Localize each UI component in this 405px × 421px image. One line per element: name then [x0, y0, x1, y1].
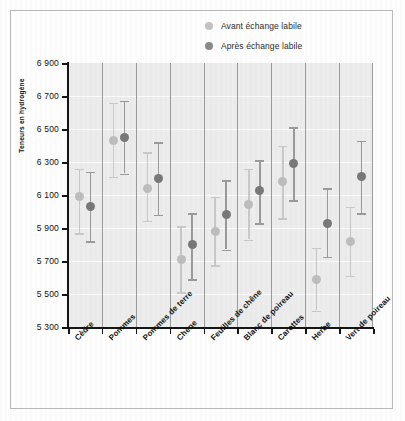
x-axis-tick [136, 329, 138, 334]
data-point-marker [143, 184, 152, 193]
error-bar-cap-lower [188, 279, 197, 281]
error-bar-cap-upper [143, 152, 152, 154]
plot-area [68, 63, 373, 327]
error-bar-cap-lower [143, 221, 152, 223]
gridline-vertical [136, 63, 137, 327]
y-axis-tick [62, 261, 68, 263]
y-axis-tick-label: 6 500 [37, 124, 59, 134]
data-point-marker [312, 275, 321, 284]
x-axis-tick [170, 329, 172, 334]
error-bar-cap-upper [312, 248, 321, 250]
error-bar-cap-upper [177, 226, 186, 228]
x-axis-tick [102, 329, 104, 334]
data-point-marker [86, 202, 95, 211]
error-bar-cap-upper [86, 172, 95, 174]
x-axis-tick [339, 329, 341, 334]
error-bar-cap-upper [244, 169, 253, 171]
error-bar-cap-lower [120, 174, 129, 176]
error-bar-cap-lower [211, 265, 220, 267]
gridline-horizontal [68, 294, 373, 295]
error-bar-cap-lower [289, 200, 298, 202]
error-bar-cap-upper [188, 213, 197, 215]
x-axis-tick [237, 329, 239, 334]
gridline-vertical [170, 63, 171, 327]
y-axis-tick [62, 195, 68, 197]
error-bar-cap-lower [154, 215, 163, 217]
x-axis-tick [68, 329, 70, 334]
data-point-marker [244, 200, 253, 209]
y-axis-tick-label: 5 300 [37, 322, 59, 332]
error-bar-cap-upper [323, 188, 332, 190]
x-axis-tick [305, 329, 307, 334]
error-bar-cap-upper [289, 127, 298, 129]
error-bar-cap-lower [346, 276, 355, 278]
gridline-vertical [271, 63, 272, 327]
gridline-vertical [339, 63, 340, 327]
error-bar-cap-upper [75, 169, 84, 171]
data-point-marker [120, 133, 129, 142]
error-bar-cap-lower [323, 257, 332, 259]
data-point-marker [109, 136, 118, 145]
gridline-horizontal [68, 96, 373, 97]
error-bar-cap-lower [255, 223, 264, 225]
error-bar-cap-upper [222, 180, 231, 182]
gridline-horizontal [68, 261, 373, 262]
y-axis-tick-label: 6 700 [37, 91, 59, 101]
error-bar-cap-lower [222, 250, 231, 252]
y-axis-tick-label: 6 100 [37, 190, 59, 200]
data-point-marker [188, 240, 197, 249]
error-bar-cap-lower [244, 240, 253, 242]
error-bar-cap-upper [346, 207, 355, 209]
x-axis-tick [204, 329, 206, 334]
y-axis-tick-label: 6 900 [37, 58, 59, 68]
chart-figure: Avant échange labile Après échange labil… [0, 0, 405, 421]
error-bar-cap-upper [357, 141, 366, 143]
gridline-vertical [372, 63, 373, 327]
chart-legend: Avant échange labile Après échange labil… [205, 17, 335, 57]
error-bar-cap-lower [312, 311, 321, 313]
error-bar-cap-lower [75, 233, 84, 235]
gridline-vertical [204, 63, 205, 327]
data-point-marker [357, 172, 366, 181]
legend-item-apres: Après échange labile [205, 37, 335, 54]
data-point-marker [177, 255, 186, 264]
data-point-marker [289, 159, 298, 168]
gridline-vertical [305, 63, 306, 327]
data-point-marker [346, 237, 355, 246]
y-axis-tick [62, 129, 68, 131]
error-bar-cap-upper [255, 160, 264, 162]
error-bar-cap-lower [357, 213, 366, 215]
legend-label-apres: Après échange labile [221, 41, 302, 51]
data-point-marker [255, 186, 264, 195]
legend-marker-apres-icon [205, 42, 213, 50]
error-bar-cap-upper [211, 197, 220, 199]
y-axis-tick [62, 294, 68, 296]
data-point-marker [211, 227, 220, 236]
x-axis-tick [271, 329, 273, 334]
legend-label-avant: Avant échange labile [221, 21, 302, 31]
legend-marker-avant-icon [205, 22, 213, 30]
y-axis-title: Teneurs en hydrogène [18, 61, 25, 171]
error-bar-cap-lower [86, 241, 95, 243]
y-axis-tick [62, 63, 68, 65]
error-bar-cap-upper [109, 103, 118, 105]
y-axis-tick [62, 162, 68, 164]
y-axis-tick [62, 96, 68, 98]
error-bar-cap-upper [120, 101, 129, 103]
error-bar-cap-upper [278, 146, 287, 148]
gridline-vertical [102, 63, 103, 327]
data-point-marker [75, 192, 84, 201]
x-axis-tick [373, 329, 375, 334]
y-axis-tick [62, 228, 68, 230]
error-bar-cap-lower [109, 177, 118, 179]
legend-item-avant: Avant échange labile [205, 17, 335, 34]
y-axis-tick-label: 5 700 [37, 256, 59, 266]
data-point-marker [323, 219, 332, 228]
y-axis-tick-label: 5 500 [37, 289, 59, 299]
data-point-marker [222, 210, 231, 219]
data-point-marker [154, 174, 163, 183]
y-axis-tick-label: 5 900 [37, 223, 59, 233]
error-bar-cap-upper [154, 142, 163, 144]
gridline-vertical [237, 63, 238, 327]
y-axis-tick-label: 6 300 [37, 157, 59, 167]
